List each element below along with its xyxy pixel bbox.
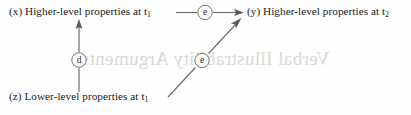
edge-z-to-x: d [72,19,86,92]
node-z-label: (z) Lower-level properties at t1 [9,91,148,102]
node-z-text: Lower-level properties at t [24,90,144,102]
edge-z-to-y-badge-label: e [200,55,204,65]
node-y-label: (y) Higher-level properties at t2 [247,6,389,17]
edge-z-to-y-segment-upper [209,24,237,54]
node-x-label: (x) Higher-level properties at t1 [9,6,151,17]
edge-z-to-y: e [168,18,242,97]
node-z-marker: (z) [9,90,22,102]
edge-z-to-x-badge-label: d [77,55,82,65]
node-y-marker: (y) [247,5,260,17]
edge-x-to-y-badge-label: e [203,7,207,17]
node-y-text: Higher-level properties at t [263,5,385,17]
node-x-marker: (x) [9,5,22,17]
edge-x-to-y: e [176,5,244,19]
node-z-subscript: 1 [145,95,149,104]
node-x-subscript: 1 [147,10,151,19]
causal-exclusion-diagram: Verbal Illustrability Arguments e d e [0,0,411,115]
node-y-subscript: 2 [385,10,389,19]
edge-z-to-y-segment-lower [168,68,196,98]
node-x-text: Higher-level properties at t [25,5,147,17]
